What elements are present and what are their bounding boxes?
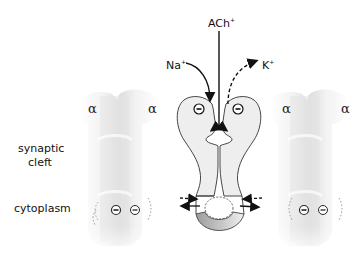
cytoplasm-label: cytoplasm <box>14 203 71 215</box>
k-label: K+ <box>262 56 274 72</box>
synaptic-cleft-line1: synaptic <box>18 143 62 155</box>
diagram-canvas <box>0 0 363 255</box>
ach-charge: + <box>230 16 235 23</box>
alpha-label-right-2: α <box>341 101 350 116</box>
channel-pore <box>205 197 233 219</box>
ach-label: ACh+ <box>208 14 235 30</box>
na-charge: + <box>181 58 186 65</box>
ach-text: ACh <box>208 17 230 30</box>
na-text: Na <box>166 59 181 72</box>
k-charge: + <box>269 58 274 65</box>
achr-diagram: ACh+ Na+ K+ synaptic cleft cytoplasm α α… <box>0 0 363 255</box>
na-influx-arrow <box>186 63 210 100</box>
right-membrane-arc-right <box>339 198 342 220</box>
na-label: Na+ <box>166 56 186 72</box>
synaptic-cleft-line2: cleft <box>18 157 62 169</box>
alpha-label-left-2: α <box>148 101 157 116</box>
alpha-label-left-1: α <box>88 101 97 116</box>
synaptic-cleft-label: synaptic cleft <box>18 143 62 169</box>
alpha-label-right-1: α <box>282 101 291 116</box>
left-membrane-arc-right <box>148 198 151 220</box>
